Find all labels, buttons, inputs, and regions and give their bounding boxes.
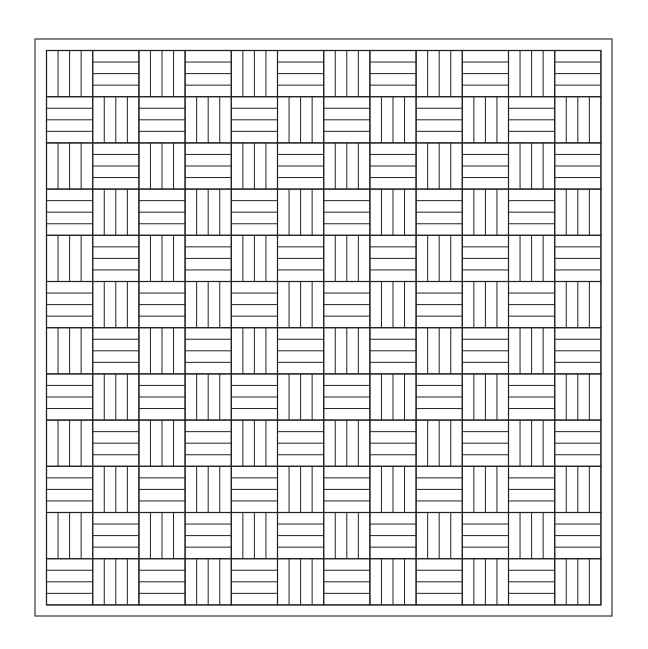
tile-vertical-planks	[324, 235, 370, 281]
tile-horizontal-planks	[462, 235, 508, 281]
tile-vertical-planks	[416, 235, 462, 281]
tile-vertical-planks	[231, 51, 277, 97]
tile-horizontal-planks	[231, 282, 277, 328]
tile-vertical-planks	[555, 374, 601, 420]
tile-vertical-planks	[93, 282, 139, 328]
tile-horizontal-planks	[324, 282, 370, 328]
tile-vertical-planks	[462, 466, 508, 512]
tile-horizontal-planks	[278, 235, 324, 281]
tile-vertical-planks	[185, 374, 231, 420]
tile-vertical-planks	[462, 97, 508, 143]
tile-vertical-planks	[370, 282, 416, 328]
tile-vertical-planks	[185, 559, 231, 605]
tile-horizontal-planks	[555, 328, 601, 374]
tile-vertical-planks	[509, 420, 555, 466]
tile-horizontal-planks	[231, 97, 277, 143]
tile-vertical-planks	[370, 466, 416, 512]
tile-horizontal-planks	[47, 374, 93, 420]
tile-vertical-planks	[278, 559, 324, 605]
tile-horizontal-planks	[93, 328, 139, 374]
tile-horizontal-planks	[278, 328, 324, 374]
tile-vertical-planks	[47, 51, 93, 97]
tile-horizontal-planks	[93, 420, 139, 466]
tile-vertical-planks	[324, 51, 370, 97]
tile-horizontal-planks	[370, 51, 416, 97]
tile-vertical-planks	[93, 559, 139, 605]
tile-horizontal-planks	[47, 97, 93, 143]
tile-vertical-planks	[509, 143, 555, 189]
tile-horizontal-planks	[93, 51, 139, 97]
tile-horizontal-planks	[139, 189, 185, 235]
tile-horizontal-planks	[93, 513, 139, 559]
tile-horizontal-planks	[324, 97, 370, 143]
tile-vertical-planks	[278, 97, 324, 143]
tile-horizontal-planks	[278, 420, 324, 466]
tile-horizontal-planks	[416, 559, 462, 605]
tile-horizontal-planks	[139, 374, 185, 420]
tile-vertical-planks	[555, 97, 601, 143]
tile-vertical-planks	[462, 189, 508, 235]
tile-vertical-planks	[416, 143, 462, 189]
tile-vertical-planks	[139, 51, 185, 97]
tile-horizontal-planks	[509, 282, 555, 328]
tile-vertical-planks	[93, 466, 139, 512]
tile-vertical-planks	[139, 235, 185, 281]
tile-horizontal-planks	[185, 143, 231, 189]
tile-horizontal-planks	[278, 51, 324, 97]
tile-horizontal-planks	[231, 189, 277, 235]
tile-horizontal-planks	[370, 420, 416, 466]
tile-horizontal-planks	[231, 466, 277, 512]
tile-horizontal-planks	[416, 189, 462, 235]
tile-vertical-planks	[509, 235, 555, 281]
tile-vertical-planks	[185, 466, 231, 512]
tile-horizontal-planks	[47, 466, 93, 512]
tile-vertical-planks	[278, 466, 324, 512]
tile-vertical-planks	[93, 374, 139, 420]
tile-horizontal-planks	[185, 513, 231, 559]
tile-horizontal-planks	[324, 189, 370, 235]
tile-vertical-planks	[370, 374, 416, 420]
tile-vertical-planks	[231, 143, 277, 189]
tile-horizontal-planks	[324, 466, 370, 512]
tile-vertical-planks	[416, 51, 462, 97]
tile-horizontal-planks	[509, 466, 555, 512]
tile-horizontal-planks	[555, 235, 601, 281]
tile-vertical-planks	[555, 559, 601, 605]
tile-horizontal-planks	[509, 189, 555, 235]
tile-horizontal-planks	[416, 97, 462, 143]
tile-vertical-planks	[509, 51, 555, 97]
tile-vertical-planks	[47, 420, 93, 466]
tile-vertical-planks	[509, 328, 555, 374]
tile-vertical-planks	[370, 189, 416, 235]
tile-horizontal-planks	[93, 235, 139, 281]
tile-horizontal-planks	[47, 282, 93, 328]
tile-horizontal-planks	[462, 143, 508, 189]
tile-vertical-planks	[93, 189, 139, 235]
tile-grid	[47, 51, 601, 605]
tile-horizontal-planks	[416, 282, 462, 328]
tile-horizontal-planks	[509, 374, 555, 420]
tile-vertical-planks	[462, 282, 508, 328]
parquet-pattern	[0, 0, 648, 649]
tile-horizontal-planks	[47, 559, 93, 605]
tile-vertical-planks	[555, 189, 601, 235]
tile-horizontal-planks	[462, 420, 508, 466]
tile-horizontal-planks	[370, 513, 416, 559]
tile-horizontal-planks	[462, 51, 508, 97]
tile-vertical-planks	[370, 559, 416, 605]
tile-vertical-planks	[47, 235, 93, 281]
tile-horizontal-planks	[324, 374, 370, 420]
tile-vertical-planks	[231, 235, 277, 281]
tile-horizontal-planks	[185, 420, 231, 466]
tile-horizontal-planks	[370, 143, 416, 189]
tile-vertical-planks	[93, 97, 139, 143]
tile-horizontal-planks	[416, 466, 462, 512]
tile-horizontal-planks	[139, 97, 185, 143]
tile-vertical-planks	[185, 189, 231, 235]
tile-vertical-planks	[324, 513, 370, 559]
tile-vertical-planks	[185, 97, 231, 143]
tile-horizontal-planks	[47, 189, 93, 235]
tile-horizontal-planks	[555, 513, 601, 559]
tile-vertical-planks	[139, 420, 185, 466]
tile-horizontal-planks	[139, 282, 185, 328]
